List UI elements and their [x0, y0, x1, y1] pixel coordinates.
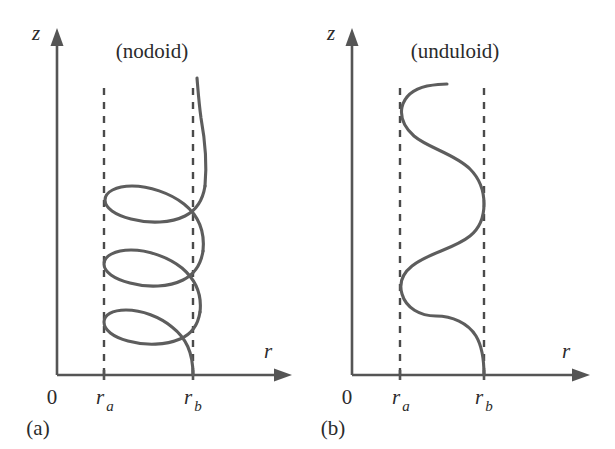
panel-b-r-axis: [352, 369, 590, 382]
panel-b-caption: (b): [321, 416, 346, 440]
panel-b-rb-label: r b: [475, 385, 493, 414]
panel-a-ra-label-sub: a: [106, 398, 114, 414]
figure-container: z r (nodoid) 0 r a r: [0, 0, 615, 449]
panel-b-ra-label-sub: a: [402, 398, 410, 414]
panel-a-ra-label: r a: [96, 385, 114, 414]
panel-a-z-axis-label: z: [31, 21, 40, 45]
panel-a-top-tail: [197, 78, 206, 186]
panel-b-r-axis-label: r: [562, 339, 571, 363]
panel-a-loop-2: [104, 250, 203, 312]
panel-b-z-axis-arrowhead: [346, 28, 359, 46]
panel-a-rb-label: r b: [184, 385, 202, 414]
panel-a-z-axis: [51, 28, 64, 375]
panel-a-caption: (a): [26, 416, 49, 440]
panel-a-title: (nodoid): [116, 39, 188, 63]
panel-b-unduloid-curve: [401, 84, 484, 375]
panel-a-origin-tick-label: 0: [47, 385, 58, 409]
panel-a-r-axis-label: r: [264, 339, 273, 363]
panel-b-ra-label: r a: [392, 385, 410, 414]
panel-a-rb-label-sub: b: [194, 398, 202, 414]
panel-b: z r (unduloid) 0 r a r b (b): [321, 21, 590, 440]
panel-a-rb-label-main: r: [184, 385, 193, 409]
panel-a-loop-1: [104, 310, 200, 375]
panel-b-rb-label-main: r: [475, 385, 484, 409]
panel-a-origin-label: 0: [47, 385, 58, 409]
panel-a-ra-label-main: r: [96, 385, 105, 409]
panel-a-r-axis: [57, 369, 292, 382]
panel-b-r-axis-arrowhead: [572, 369, 590, 382]
panel-b-rb-label-sub: b: [485, 398, 493, 414]
panel-a-z-axis-arrowhead: [51, 28, 64, 46]
delaunay-surfaces-figure: z r (nodoid) 0 r a r: [0, 0, 615, 449]
panel-a-r-axis-arrowhead: [274, 369, 292, 382]
panel-b-z-axis-label: z: [326, 21, 335, 45]
panel-b-ra-label-main: r: [392, 385, 401, 409]
panel-b-z-axis: [346, 28, 359, 375]
panel-a: z r (nodoid) 0 r a r: [26, 21, 292, 440]
panel-a-loop-3: [105, 186, 205, 251]
panel-a-nodoid-curve: [104, 78, 206, 375]
panel-b-title: (unduloid): [411, 39, 500, 63]
panel-b-origin-label: 0: [342, 385, 353, 409]
